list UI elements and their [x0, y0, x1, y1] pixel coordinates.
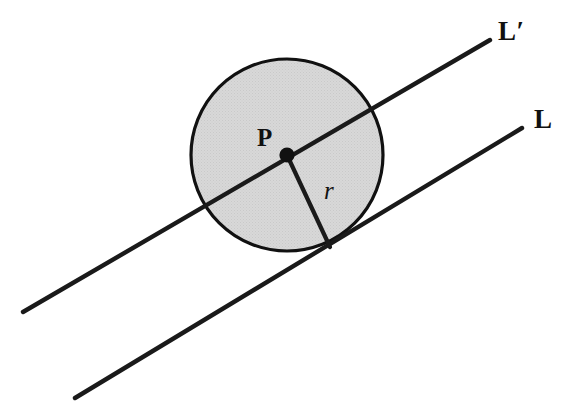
- label-radius-r: r: [324, 178, 334, 203]
- label-secant-line-l-prime: L′: [498, 18, 525, 45]
- diagram-canvas: [0, 0, 579, 413]
- label-center-point-p: P: [257, 125, 272, 150]
- geometry-diagram: L′ L P r: [0, 0, 579, 413]
- center-point-dot: [279, 147, 294, 162]
- label-tangent-line-l: L: [534, 106, 553, 133]
